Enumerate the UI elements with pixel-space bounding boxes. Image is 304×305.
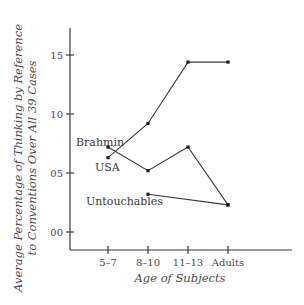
x-ticks: 5–78–1011–13Adults — [99, 246, 244, 268]
series-label-brahmin: Brahmin — [76, 136, 124, 149]
data-point — [226, 60, 229, 63]
x-tick-label: Adults — [211, 257, 244, 268]
series-line — [108, 62, 228, 158]
series-label-usa: USA — [95, 161, 121, 174]
data-point — [226, 203, 229, 206]
data-point — [146, 122, 149, 125]
x-tick-label: 11–13 — [173, 257, 203, 268]
data-point — [186, 145, 189, 148]
x-axis-title: Age of Subjects — [134, 271, 226, 285]
series-lines — [106, 60, 229, 206]
data-point — [106, 156, 109, 159]
y-tick-label: 15 — [50, 50, 63, 61]
x-tick-label: 5–7 — [99, 257, 117, 268]
y-tick-label: 00 — [50, 227, 63, 238]
y-tick-label: 10 — [50, 109, 63, 120]
data-point — [146, 169, 149, 172]
data-point — [186, 60, 189, 63]
series-usa — [106, 60, 229, 159]
y-axis-title-line-1: Average Percentage of Thinking by Refere… — [11, 24, 25, 293]
y-tick-label: 05 — [50, 168, 63, 179]
y-axis-title: Average Percentage of Thinking by Refere… — [11, 24, 39, 293]
series-label-untouchables: Untouchables — [86, 195, 163, 208]
line-chart: 00051015 5–78–1011–13Adults Brahmin USA … — [0, 0, 304, 305]
y-axis-title-line-2: to Conventions Over All 39 Cases — [25, 60, 39, 255]
x-tick-label: 8–10 — [136, 257, 160, 268]
